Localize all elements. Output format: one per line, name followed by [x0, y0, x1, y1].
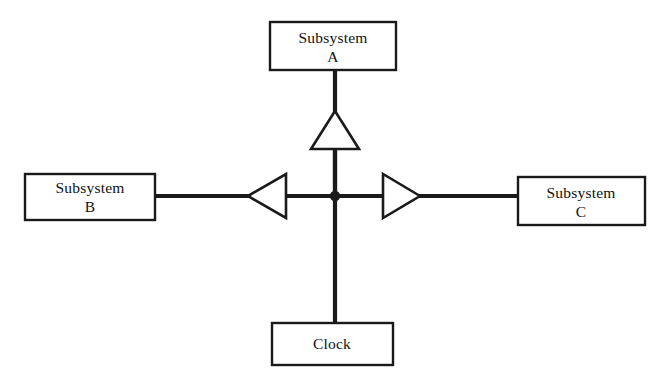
box-subsystem-b[interactable]: Subsystem B — [25, 174, 155, 220]
buffer-right-icon — [383, 174, 420, 218]
clock-distribution-diagram: Subsystem C --> Subsystem A Subsystem B — [0, 0, 670, 377]
diagram-canvas: Subsystem C --> Subsystem A Subsystem B — [0, 0, 670, 377]
box-clock-label: Clock — [313, 335, 351, 352]
box-subsystem-c[interactable]: Subsystem C — [518, 177, 645, 225]
box-subsystem-b-label-line1: Subsystem — [56, 179, 125, 196]
buffer-left-icon — [248, 174, 286, 218]
box-clock[interactable]: Clock — [272, 323, 393, 365]
box-subsystem-c-label-line1: Subsystem — [547, 184, 616, 201]
box-subsystem-c-label-line2: C — [576, 203, 587, 220]
box-subsystem-a-label-line1: Subsystem — [299, 29, 368, 46]
junction-dot — [330, 191, 340, 201]
box-subsystem-a-label-line2: A — [327, 48, 339, 65]
buffer-up-icon — [311, 111, 359, 149]
box-subsystem-a[interactable]: Subsystem A — [270, 22, 396, 70]
box-subsystem-b-label-line2: B — [85, 198, 96, 215]
